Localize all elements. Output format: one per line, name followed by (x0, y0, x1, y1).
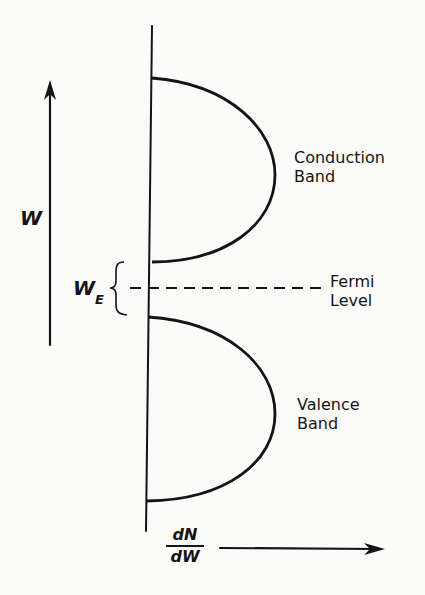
conduction-band-curve (152, 78, 275, 262)
energy-axis-label: W (20, 206, 42, 230)
fermi-energy-label-subscript: E (95, 292, 104, 307)
dos-axis-label-denominator: dW (164, 548, 206, 566)
fermi-energy-label: WE (73, 276, 104, 303)
valence-band-curve (147, 317, 275, 501)
valence-band-label-line2: Band (297, 414, 360, 433)
vertical-axis-line (146, 26, 152, 531)
valence-band-label-line1: Valence (297, 395, 360, 414)
dos-axis-label: dN dW (164, 526, 206, 566)
conduction-band-label-line1: Conduction (294, 148, 385, 167)
fermi-level-label-line2: Level (330, 291, 375, 310)
valence-band-label: Valence Band (297, 395, 360, 433)
conduction-band-label: Conduction Band (294, 148, 385, 186)
fermi-energy-label-main: W (73, 276, 95, 300)
dos-axis-arrow-shaft (220, 548, 378, 549)
fermi-level-label-line1: Fermi (330, 272, 375, 291)
fermi-level-label: Fermi Level (330, 272, 375, 310)
fermi-energy-brace (110, 262, 127, 315)
dos-axis-label-numerator: dN (164, 526, 206, 544)
conduction-band-label-line2: Band (294, 167, 385, 186)
